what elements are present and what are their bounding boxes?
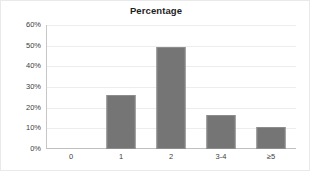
y-tick-label: 10% [1, 124, 41, 132]
bar-slot [96, 25, 146, 149]
x-axis: 0123-4≥5 [46, 152, 296, 166]
bar[interactable] [257, 127, 286, 149]
x-tick-label: 0 [69, 152, 73, 162]
y-tick-label: 50% [1, 42, 41, 50]
y-tick-label: 40% [1, 62, 41, 70]
bar[interactable] [207, 115, 236, 149]
bar-slot [146, 25, 196, 149]
bar-slot [46, 25, 96, 149]
y-tick-label: 30% [1, 83, 41, 91]
bar[interactable] [107, 95, 136, 149]
x-tick-label: 2 [169, 152, 173, 162]
x-tick-label: ≥5 [267, 152, 275, 162]
bar-slot [196, 25, 246, 149]
bar[interactable] [157, 47, 186, 149]
y-tick-label: 60% [1, 21, 41, 29]
bars-layer [46, 25, 296, 149]
y-tick-label: 0% [1, 145, 41, 153]
x-tick-label: 1 [119, 152, 123, 162]
y-tick-label: 20% [1, 104, 41, 112]
chart-title: Percentage [1, 5, 310, 17]
x-tick-label: 3-4 [216, 152, 227, 162]
bar-slot [246, 25, 296, 149]
chart-figure: Percentage 0%10%20%30%40%50%60% 0123-4≥5 [0, 0, 310, 171]
